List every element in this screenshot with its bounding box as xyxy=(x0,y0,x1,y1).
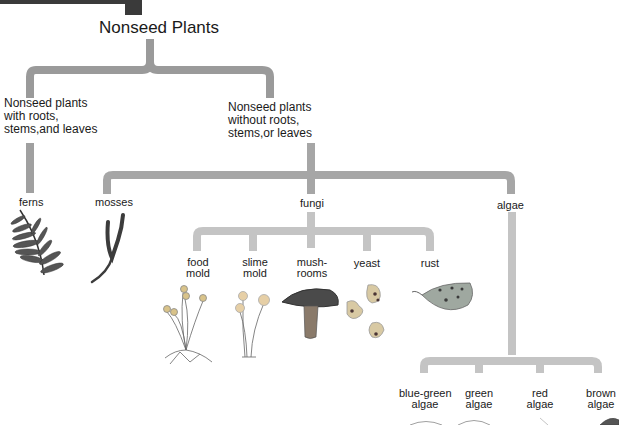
food-mold-icon xyxy=(164,286,213,365)
yeast-icon xyxy=(347,285,384,338)
brown-algae-icon xyxy=(600,418,619,425)
label-blue-green-algae: blue-green algae xyxy=(399,388,451,410)
level1-connector xyxy=(30,39,270,98)
label-fungi: fungi xyxy=(300,198,324,209)
label-slime-mold: slime mold xyxy=(240,257,270,279)
label-algae: algae xyxy=(497,200,524,211)
fungi-connector xyxy=(197,212,430,251)
mushroom-icon xyxy=(282,289,338,339)
tree-connectors xyxy=(0,0,619,425)
rust-leaf-icon xyxy=(412,283,473,310)
green-algae-icon xyxy=(458,421,490,425)
fern-icon xyxy=(10,210,64,275)
label-ferns: ferns xyxy=(19,197,43,208)
branch-label-with-roots: Nonseed plants with roots, stems,and lea… xyxy=(4,97,97,136)
moss-icon xyxy=(92,215,123,282)
blue-green-algae-icon xyxy=(410,422,442,425)
label-mosses: mosses xyxy=(95,197,133,208)
label-red-algae: red algae xyxy=(523,388,557,410)
diagram-title: Nonseed Plants xyxy=(99,18,219,38)
label-green-algae: green algae xyxy=(462,388,496,410)
slime-mold-icon xyxy=(236,292,270,358)
level2-connector xyxy=(107,143,511,194)
label-yeast: yeast xyxy=(352,258,382,269)
label-brown-algae: brown algae xyxy=(583,388,619,410)
label-mushrooms: mush- rooms xyxy=(296,257,328,279)
algae-thumbnails xyxy=(410,418,619,425)
red-algae-icon xyxy=(540,418,548,425)
branch-label-without-roots: Nonseed plants without roots, stems,or l… xyxy=(228,101,312,140)
label-food-mold: food mold xyxy=(183,257,213,279)
label-rust: rust xyxy=(415,258,445,269)
